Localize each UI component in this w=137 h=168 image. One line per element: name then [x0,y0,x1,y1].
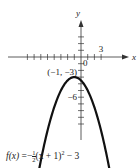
x-axis-arrow [122,55,129,60]
x-tick-label: 3 [99,44,104,54]
x-axis-label: x [131,52,136,62]
parabola-chart: yx03−6(−1, −3) [0,0,137,168]
formula-tail: − 3 [64,151,79,161]
function-name: f(x) [6,151,19,161]
y-tick-label: −6 [67,92,77,102]
y-axis-label: y [75,8,80,18]
origin-label: 0 [83,58,88,68]
function-formula: f(x) =−12(x + 1)2 − 3 [6,150,79,163]
formula-body: (x + 1) [36,151,62,161]
vertex-label: (−1, −3) [47,67,77,77]
y-axis-arrow [79,20,84,27]
